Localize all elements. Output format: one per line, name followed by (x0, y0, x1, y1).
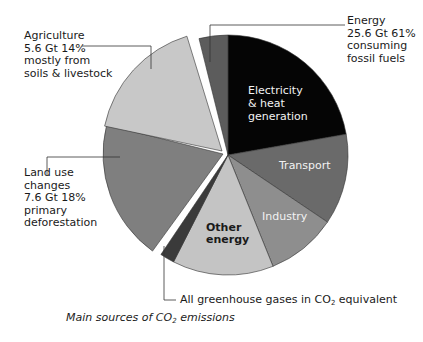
agriculture-label-desc1: mostly from (24, 55, 112, 68)
transport-label: Transport (279, 159, 331, 172)
energy-label-desc1: consuming (347, 40, 416, 53)
energy-label: Energy 25.6 Gt 61% consuming fossil fuel… (347, 15, 416, 65)
agriculture-label-name: Agriculture (24, 30, 112, 43)
land-use-label-name1: Land use (24, 167, 97, 180)
electricity-label-line3: generation (248, 110, 308, 123)
electricity-label: Electricity & heat generation (248, 84, 308, 123)
agriculture-label-desc2: soils & livestock (24, 68, 112, 81)
ghg-footnote: All greenhouse gases in CO2 equivalent (180, 293, 397, 306)
caption-prefix: Main sources of CO (66, 311, 172, 324)
ghg-footnote-suffix: equivalent (335, 293, 397, 306)
industry-label: Industry (262, 210, 307, 223)
electricity-label-line1: Electricity (248, 84, 308, 97)
chart-caption: Main sources of CO2 emissions (66, 311, 235, 324)
land-use-label: Land use changes 7.6 Gt 18% primary defo… (24, 167, 97, 230)
caption-suffix: emissions (177, 311, 235, 324)
land-use-label-value: 7.6 Gt 18% (24, 192, 97, 205)
electricity-label-line2: & heat (248, 97, 308, 110)
energy-label-name: Energy (347, 15, 416, 28)
ghg-footnote-prefix: All greenhouse gases in CO (180, 293, 331, 306)
other-energy-label-line2: energy (206, 234, 249, 246)
land-use-label-desc2: deforestation (24, 217, 97, 230)
agriculture-label: Agriculture 5.6 Gt 14% mostly from soils… (24, 30, 112, 80)
energy-label-desc2: fossil fuels (347, 53, 416, 66)
other-energy-label: Other energy (206, 222, 249, 246)
